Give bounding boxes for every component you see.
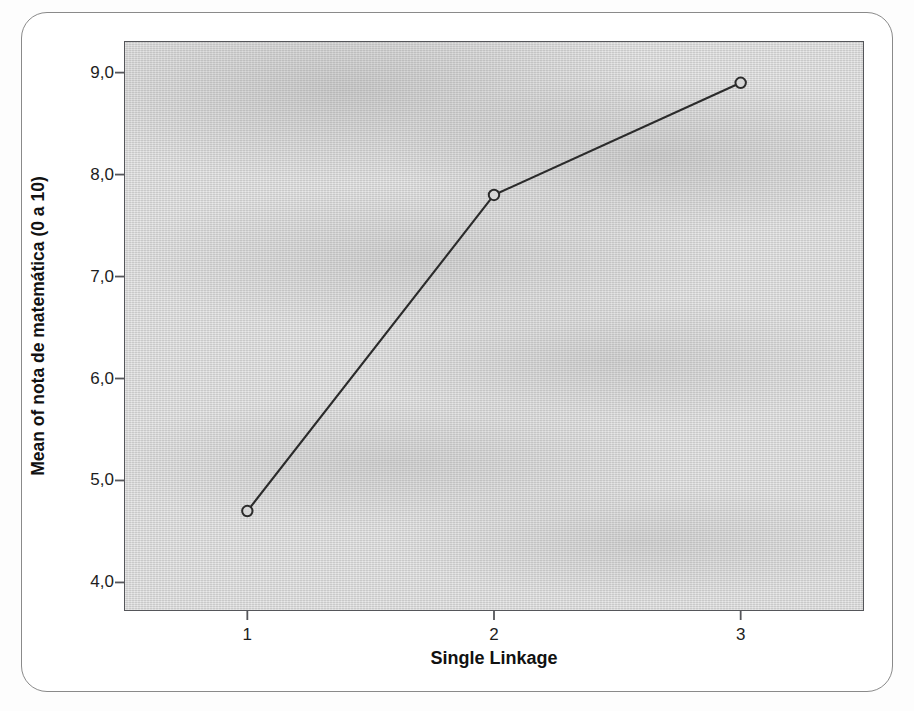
- y-tick-label: 5,0: [70, 470, 114, 490]
- x-axis-ticks: [247, 611, 740, 620]
- y-tick-label: 9,0: [70, 63, 114, 83]
- y-axis-tick-labels: 4,05,06,07,08,09,0: [62, 0, 114, 711]
- y-tick-label: 8,0: [70, 165, 114, 185]
- x-tick-label: 1: [243, 625, 252, 645]
- data-point-marker: [242, 506, 252, 516]
- data-point-marker: [489, 190, 499, 200]
- x-tick-label: 3: [736, 625, 745, 645]
- data-point-marker: [735, 78, 745, 88]
- y-tick-label: 4,0: [70, 572, 114, 592]
- y-axis-ticks: [115, 73, 124, 583]
- x-axis-title: Single Linkage: [124, 648, 864, 669]
- plot-svg: [124, 41, 864, 611]
- y-tick-label: 7,0: [70, 267, 114, 287]
- figure-root: 4,05,06,07,08,09,0 Single Linkage Mean o…: [0, 0, 914, 711]
- series-markers: [242, 78, 746, 517]
- y-axis-title: Mean of nota de matemática (0 a 10): [28, 176, 49, 476]
- y-tick-label: 6,0: [70, 369, 114, 389]
- series-line: [247, 83, 740, 511]
- line-chart: 4,05,06,07,08,09,0 Single Linkage Mean o…: [0, 0, 914, 711]
- x-tick-label: 2: [489, 625, 498, 645]
